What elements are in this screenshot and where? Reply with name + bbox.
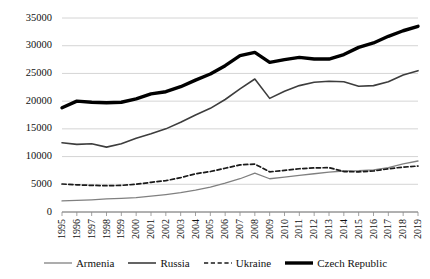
y-axis-tick-label: 25000 [0,68,52,79]
x-axis-tick-label: 2009 [265,219,275,239]
legend-item-armenia[interactable]: Armenia [43,258,114,269]
y-axis-tick-label: 30000 [0,40,52,51]
chart-legend: ArmeniaRussiaUkraineCzech Republic [0,252,430,274]
y-axis-tick-label: 15000 [0,123,52,134]
x-axis-tick-label: 2002 [161,219,171,239]
series-line-armenia [62,161,418,201]
legend-label: Ukraine [236,258,271,269]
x-axis-tick-label: 2010 [280,219,290,239]
series-line-russia [62,71,418,147]
y-axis-tick-label: 0 [0,207,52,218]
y-axis-tick-label: 5000 [0,179,52,190]
legend-swatch-icon [203,258,233,268]
legend-label: Russia [160,258,189,269]
x-axis-tick-label: 2013 [324,219,334,239]
x-axis-tick-label: 1999 [116,219,126,239]
series-line-czech-republic [62,26,418,107]
y-axis-tick-label: 10000 [0,151,52,162]
x-axis-tick-label: 2018 [398,219,408,239]
x-axis-tick-label: 2003 [176,219,186,239]
y-axis-tick-label: 35000 [0,13,52,24]
x-axis-tick-label: 2019 [413,219,423,239]
x-axis-tick-label: 1995 [57,219,67,239]
x-axis-tick-label: 2015 [354,219,364,239]
x-axis-tick-label: 1997 [87,219,97,239]
x-axis-tick-label: 2005 [205,219,215,239]
x-axis-tick-label: 1996 [72,219,82,239]
legend-swatch-icon [43,258,73,268]
legend-item-russia[interactable]: Russia [127,258,189,269]
legend-swatch-icon [284,258,314,268]
line-chart: 05000100001500020000250003000035000 1995… [0,0,430,279]
x-axis-tick-label: 2014 [339,219,349,239]
legend-label: Armenia [76,258,114,269]
x-axis-tick-label: 2007 [235,219,245,239]
x-axis-tick-label: 2004 [191,219,201,239]
x-axis-tick-label: 2008 [250,219,260,239]
x-axis-tick-label: 2016 [369,219,379,239]
x-axis-tick-label: 2000 [131,219,141,239]
series-line-ukraine [62,164,418,186]
legend-item-czech-republic[interactable]: Czech Republic [284,258,387,269]
x-axis-tick-label: 2017 [383,219,393,239]
x-axis-tick-label: 2006 [220,219,230,239]
y-axis-tick-label: 20000 [0,96,52,107]
x-axis-tick-label: 2011 [294,219,304,239]
x-axis-tick-label: 2012 [309,219,319,239]
x-axis-tick-label: 1998 [102,219,112,239]
x-axis-tick-label: 2001 [146,219,156,239]
legend-label: Czech Republic [317,258,387,269]
legend-item-ukraine[interactable]: Ukraine [203,258,271,269]
legend-swatch-icon [127,258,157,268]
